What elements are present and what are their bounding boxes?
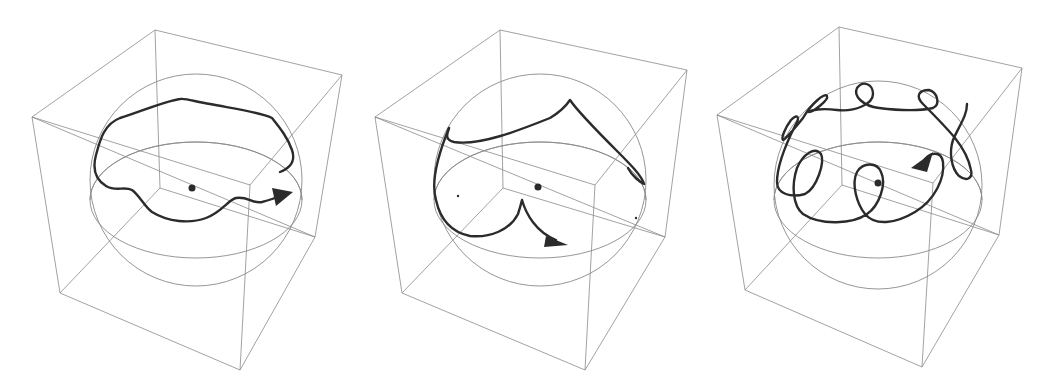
center-point <box>535 184 542 191</box>
panel-looped-precession <box>697 0 1047 390</box>
wireframe-box-with-sphere <box>697 0 1047 390</box>
trajectory-curve <box>434 100 644 247</box>
panel-wavy-precession <box>0 0 350 390</box>
cube-wireframe <box>717 27 1022 367</box>
cube-wireframe <box>375 30 687 370</box>
speck <box>457 195 459 197</box>
speck <box>635 217 637 219</box>
panel-cusped-precession <box>350 0 700 390</box>
sphere-outline <box>434 74 646 286</box>
cube-wireframe <box>32 30 342 370</box>
center-point <box>875 180 882 187</box>
wireframe-box-with-sphere <box>350 0 700 390</box>
trajectory-curve <box>94 99 293 222</box>
sphere-outline <box>90 74 302 286</box>
center-point <box>189 185 196 192</box>
wireframe-box-with-sphere <box>0 0 350 390</box>
precession-figure <box>0 0 1047 390</box>
